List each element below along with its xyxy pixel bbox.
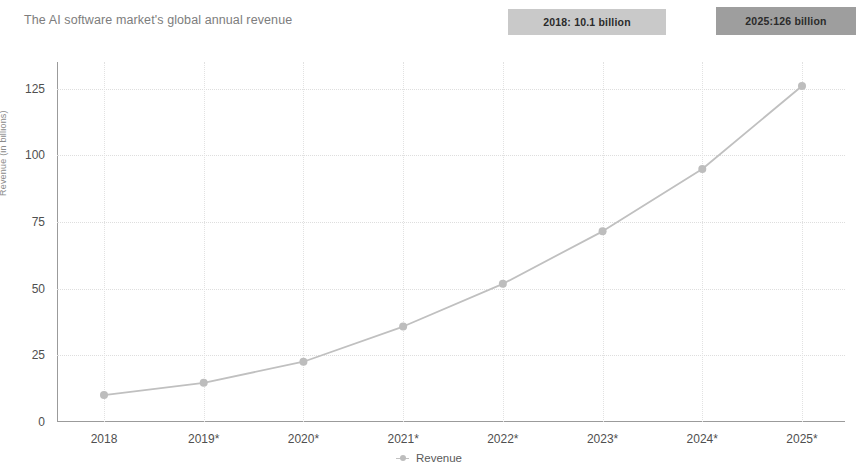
y-axis-tick-label: 100: [25, 148, 45, 162]
annotation-box-2018: 2018: 10.1 billion: [508, 9, 666, 35]
data-point-2020: [299, 358, 307, 366]
x-axis-tick-label: 2022*: [487, 432, 518, 446]
data-point-2022: [499, 280, 507, 288]
y-axis-tick-label: 0: [38, 415, 45, 429]
data-point-2025: [798, 82, 806, 90]
x-axis-tick-label: 2018: [91, 432, 118, 446]
y-axis-tick-label: 25: [32, 348, 45, 362]
series-line-revenue: [104, 86, 802, 395]
legend-item-revenue: Revenue: [416, 452, 462, 464]
data-point-2023: [599, 227, 607, 235]
y-axis-tick-label: 50: [32, 282, 45, 296]
x-axis-tick-label: 2021*: [387, 432, 418, 446]
chart-legend: Revenue: [0, 452, 858, 464]
x-axis-tick-label: 2025*: [786, 432, 817, 446]
y-axis-tick-labels: 0255075100125: [0, 62, 57, 422]
data-point-2018: [100, 391, 108, 399]
y-axis-tick-label: 75: [32, 215, 45, 229]
y-axis-tick-label: 125: [25, 82, 45, 96]
x-axis-tick-label: 2020*: [288, 432, 319, 446]
plot-area: [57, 62, 845, 422]
x-axis-tick-label: 2023*: [587, 432, 618, 446]
data-point-2024: [698, 165, 706, 173]
legend-marker-icon: [396, 454, 409, 463]
x-axis-tick-label: 2024*: [687, 432, 718, 446]
page-title: The AI software market's global annual r…: [24, 13, 292, 27]
revenue-line-series: [57, 62, 845, 422]
annotation-box-2025: 2025:126 billion: [716, 7, 856, 35]
data-point-2021: [399, 323, 407, 331]
data-point-2019: [200, 379, 208, 387]
x-axis-tick-label: 2019*: [188, 432, 219, 446]
